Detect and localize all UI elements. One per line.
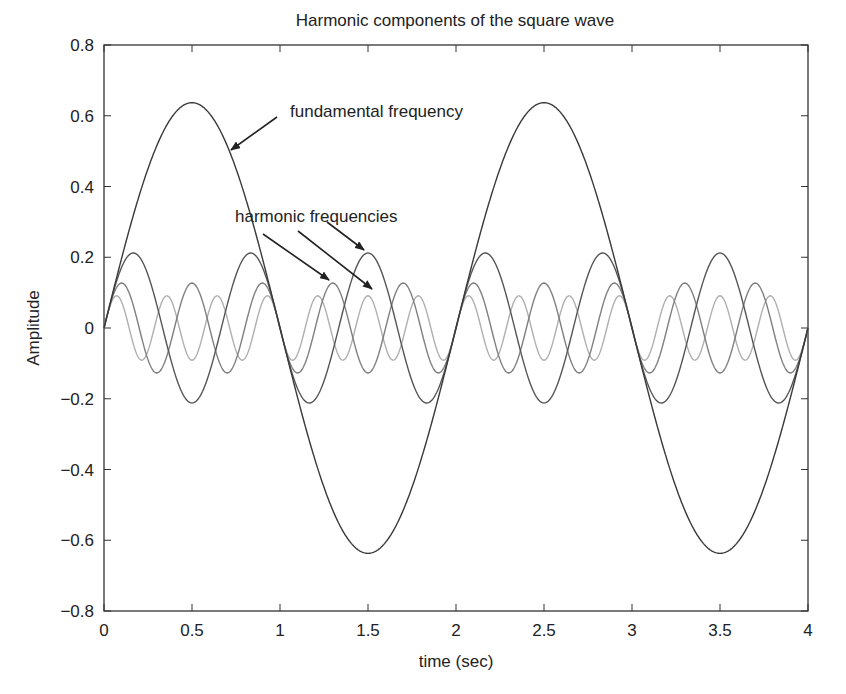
y-tick-label: −0.4 <box>60 461 94 480</box>
plot-area: fundamental frequencyharmonic frequencie… <box>104 45 808 611</box>
x-tick-label: 3.5 <box>708 621 732 640</box>
x-tick-label: 4 <box>803 621 812 640</box>
y-tick-label: 0.2 <box>70 248 94 267</box>
annotation-label: harmonic frequencies <box>235 207 398 226</box>
x-tick-label: 1.5 <box>356 621 380 640</box>
annotation-arrow-icon <box>263 234 329 280</box>
y-tick-labels: 0.80.60.40.20−0.2−0.4−0.6−0.8 <box>60 36 94 621</box>
y-tick-label: 0 <box>85 319 94 338</box>
annotations: fundamental frequencyharmonic frequencie… <box>231 102 463 289</box>
y-tick-label: −0.6 <box>60 531 94 550</box>
y-tick-label: 0.6 <box>70 107 94 126</box>
annotation-arrow-icon <box>327 222 364 250</box>
x-axis-label: time (sec) <box>419 652 494 671</box>
y-tick-label: −0.8 <box>60 602 94 621</box>
annotation-arrow-icon <box>298 231 372 289</box>
annotation-arrow-icon <box>231 117 277 150</box>
x-tick-labels: 00.511.522.533.54 <box>99 621 812 640</box>
harmonics-chart: Harmonic components of the square wave f… <box>0 0 846 694</box>
y-tick-label: 0.4 <box>70 178 94 197</box>
chart-title: Harmonic components of the square wave <box>296 11 614 30</box>
y-tick-label: −0.2 <box>60 390 94 409</box>
y-tick-label: 0.8 <box>70 36 94 55</box>
x-tick-label: 2.5 <box>532 621 556 640</box>
y-axis-label: Amplitude <box>24 290 43 366</box>
annotation-label: fundamental frequency <box>290 102 463 121</box>
x-tick-label: 2 <box>451 621 460 640</box>
x-tick-label: 0 <box>99 621 108 640</box>
series-lines <box>104 103 808 554</box>
x-tick-label: 3 <box>627 621 636 640</box>
x-tick-label: 0.5 <box>180 621 204 640</box>
x-tick-label: 1 <box>275 621 284 640</box>
